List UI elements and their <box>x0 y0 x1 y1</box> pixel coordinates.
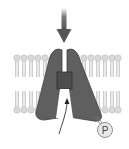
gate-block <box>57 72 72 89</box>
channel-diagram: P <box>0 0 129 149</box>
arrow-down-icon <box>57 8 72 43</box>
phosphate-label: P <box>102 125 109 136</box>
